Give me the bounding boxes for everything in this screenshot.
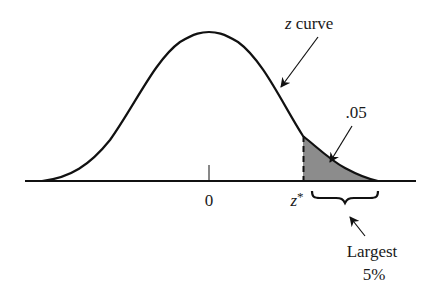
shaded-tail-area <box>303 136 378 181</box>
area-label: .05 <box>345 103 366 122</box>
tail-brace <box>312 191 378 203</box>
region-label-line2: 5% <box>363 265 386 284</box>
region-label-line1: Largest <box>347 242 398 261</box>
center-tick-label: 0 <box>205 191 214 210</box>
curve-label: zcurve <box>284 14 333 33</box>
curve-label-arrow-icon <box>281 37 318 87</box>
area-label-arrow-icon <box>330 126 352 162</box>
critical-value-label: z* <box>289 189 303 210</box>
normal-curve-diagram: zcurve .05 0 z* Largest 5% <box>0 0 441 294</box>
region-label-arrow-icon <box>350 217 365 236</box>
